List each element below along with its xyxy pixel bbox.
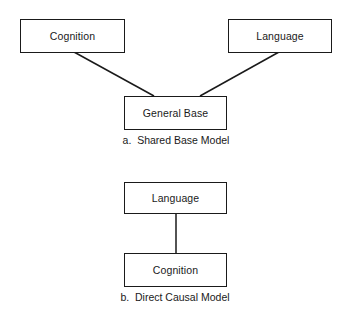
node-a-cognition: Cognition: [20, 19, 125, 53]
node-b-cognition-label: Cognition: [153, 264, 198, 276]
node-b-language-label: Language: [152, 192, 200, 204]
node-a-general-base-label: General Base: [143, 107, 208, 119]
node-a-language: Language: [228, 19, 332, 53]
edge-a-cognition-to-general-base: [74, 52, 154, 96]
node-a-language-label: Language: [256, 30, 304, 42]
caption-b: b. Direct Causal Model: [110, 291, 240, 303]
caption-a: a. Shared Base Model: [117, 134, 235, 146]
edge-a-language-to-general-base: [200, 52, 279, 96]
node-a-general-base: General Base: [124, 96, 227, 130]
node-a-cognition-label: Cognition: [50, 30, 95, 42]
node-b-language: Language: [124, 182, 227, 214]
node-b-cognition: Cognition: [124, 253, 227, 287]
